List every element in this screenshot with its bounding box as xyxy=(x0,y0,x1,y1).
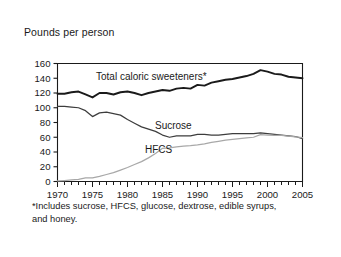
svg-text:1970: 1970 xyxy=(47,189,68,200)
x-axis-labels: 19701975198019851990199520002005 xyxy=(47,189,313,200)
series-label-total-caloric-sweeteners: Total caloric sweeteners* xyxy=(96,71,207,82)
svg-text:120: 120 xyxy=(34,87,50,98)
svg-text:140: 140 xyxy=(34,73,50,84)
svg-text:40: 40 xyxy=(40,146,51,157)
svg-text:2005: 2005 xyxy=(292,189,313,200)
y-axis-ticks xyxy=(54,64,58,182)
svg-text:60: 60 xyxy=(40,132,51,143)
svg-text:160: 160 xyxy=(34,58,50,69)
svg-text:1990: 1990 xyxy=(187,189,208,200)
svg-text:80: 80 xyxy=(40,117,51,128)
svg-text:0: 0 xyxy=(45,176,50,187)
svg-text:1995: 1995 xyxy=(222,189,243,200)
y-axis-labels: 020406080100120140160 xyxy=(34,58,50,187)
svg-text:100: 100 xyxy=(34,102,50,113)
svg-text:20: 20 xyxy=(40,161,51,172)
svg-text:1985: 1985 xyxy=(152,189,173,200)
svg-text:2000: 2000 xyxy=(257,189,278,200)
x-axis-ticks xyxy=(58,182,303,188)
svg-text:1980: 1980 xyxy=(117,189,138,200)
series-label-hfcs: HFCS xyxy=(145,144,172,155)
footnote: *Includes sucrose, HFCS, glucose, dextro… xyxy=(32,200,294,225)
series-label-sucrose: Sucrose xyxy=(155,120,192,131)
svg-text:1975: 1975 xyxy=(82,189,103,200)
figure-root: Pounds per person 020406080100120140160 … xyxy=(0,0,341,257)
